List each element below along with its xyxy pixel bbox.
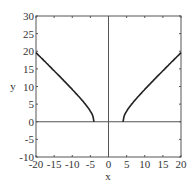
y-tick-label: 20 bbox=[23, 45, 35, 57]
chart: -20-15-10-505101520-10-5051015202530 x y bbox=[0, 0, 192, 188]
plot-area: -20-15-10-505101520-10-5051015202530 bbox=[19, 10, 187, 170]
x-tick-label: 15 bbox=[157, 158, 169, 170]
y-tick-label: 25 bbox=[23, 28, 35, 40]
x-tick-label: 5 bbox=[124, 158, 130, 170]
y-tick-label: -5 bbox=[25, 133, 35, 145]
y-tick-label: 30 bbox=[23, 10, 35, 22]
y-tick-label: 0 bbox=[29, 116, 35, 128]
y-axis-label: y bbox=[10, 80, 16, 92]
y-tick-label: 10 bbox=[23, 81, 35, 93]
curve-right-branch bbox=[123, 53, 181, 122]
curve-left-branch bbox=[36, 53, 94, 122]
x-tick-label: -10 bbox=[65, 158, 80, 170]
x-tick-label: 20 bbox=[176, 158, 188, 170]
x-tick-label: -15 bbox=[47, 158, 62, 170]
y-tick-label: 5 bbox=[29, 98, 35, 110]
x-axis-label: x bbox=[105, 170, 111, 182]
y-tick-label: 15 bbox=[23, 63, 35, 75]
x-tick-label: 10 bbox=[139, 158, 151, 170]
x-tick-label: -5 bbox=[86, 158, 96, 170]
y-tick-label: -10 bbox=[19, 151, 34, 163]
x-tick-label: 0 bbox=[106, 158, 112, 170]
